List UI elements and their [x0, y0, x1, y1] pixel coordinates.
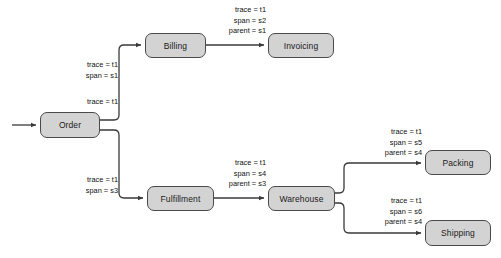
- edge-label-line: trace = t1: [56, 175, 118, 186]
- edge-label-line: parent = s4: [352, 217, 422, 228]
- edge-label-line: span = s2: [196, 16, 266, 27]
- node-fulfillment[interactable]: Fulfillment: [147, 186, 214, 211]
- edge-label-line: span = s4: [196, 169, 266, 180]
- node-label: Warehouse: [279, 194, 323, 204]
- edge-label-fulfillment-warehouse: trace = t1span = s4parent = s3: [196, 158, 266, 190]
- edge-label-warehouse-shipping: trace = t1span = s6parent = s4: [352, 196, 422, 228]
- node-label: Order: [59, 120, 81, 130]
- edge-label-warehouse-packing: trace = t1span = s5parent = s4: [352, 127, 422, 159]
- edge-label-billing-invoicing: trace = t1span = s2parent = s1: [196, 5, 266, 37]
- node-label: Shipping: [441, 228, 475, 238]
- edge-label-line: parent = s3: [196, 179, 266, 190]
- edge-label-line: trace = t1: [352, 127, 422, 138]
- node-label: Fulfillment: [161, 194, 201, 204]
- edge-label-line: trace = t1: [196, 5, 266, 16]
- edge-order-to-billing: [100, 45, 141, 120]
- edge-label-entry-order: trace = t1: [56, 97, 118, 108]
- node-billing[interactable]: Billing: [145, 33, 206, 58]
- node-label: Billing: [164, 41, 187, 51]
- edge-label-line: span = s5: [352, 138, 422, 149]
- edge-label-order-fulfillment: trace = t1span = s3: [56, 175, 118, 196]
- edge-label-order-billing: trace = t1span = s1: [56, 60, 118, 81]
- node-label: Packing: [443, 158, 474, 168]
- edge-label-line: parent = s1: [196, 26, 266, 37]
- node-label: Invoicing: [284, 41, 318, 51]
- edge-label-line: trace = t1: [196, 158, 266, 169]
- node-warehouse[interactable]: Warehouse: [268, 186, 335, 211]
- edge-label-line: span = s3: [56, 186, 118, 197]
- edge-label-line: parent = s4: [352, 148, 422, 159]
- edge-label-line: span = s6: [352, 207, 422, 218]
- node-invoicing[interactable]: Invoicing: [268, 33, 334, 58]
- node-shipping[interactable]: Shipping: [425, 220, 491, 246]
- node-packing[interactable]: Packing: [425, 150, 491, 175]
- diagram-canvas: OrderBillingInvoicingFulfillmentWarehous…: [0, 0, 501, 258]
- edge-label-line: trace = t1: [56, 97, 118, 108]
- edge-label-line: trace = t1: [352, 196, 422, 207]
- node-order[interactable]: Order: [40, 112, 100, 138]
- edge-label-line: span = s1: [56, 71, 118, 82]
- edge-warehouse-to-packing: [335, 163, 421, 193]
- edge-label-line: trace = t1: [56, 60, 118, 71]
